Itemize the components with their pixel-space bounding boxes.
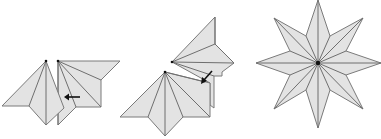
step-1-left-unit: [2, 61, 64, 125]
step-1-apex-left: [45, 60, 48, 63]
step-1-right-unit: [58, 61, 120, 125]
step-3-center-dot: [316, 61, 320, 65]
step-1-apex-right: [57, 60, 60, 63]
step-2-apex-upper: [171, 61, 174, 64]
step-2-apex-lower: [164, 71, 167, 74]
origami-diagram: [0, 0, 381, 139]
step-1-figure: [2, 60, 120, 125]
step-3-star: [256, 0, 381, 128]
step-2-figure: [120, 17, 234, 136]
step-2-lower-unit: [120, 72, 210, 136]
